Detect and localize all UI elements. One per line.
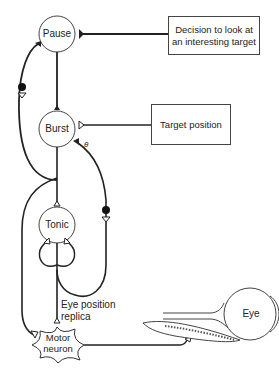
decision-line-1: Decision to look at bbox=[175, 24, 253, 36]
motor-neuron-label-1: Motor bbox=[36, 332, 80, 343]
target-position-label: Target position bbox=[160, 119, 222, 131]
eye-position-label-1: Eye position bbox=[61, 299, 115, 311]
inhibitory-synapse-icon bbox=[18, 83, 26, 91]
theta-label: θ bbox=[84, 139, 88, 151]
inhibit-arrow-icon bbox=[79, 29, 84, 39]
decision-line-2: an interesting target bbox=[172, 36, 256, 48]
optic-nerve-top bbox=[163, 303, 224, 313]
decision-input-box: Decision to look at an interesting targe… bbox=[168, 16, 260, 55]
eye-label: Eye bbox=[236, 308, 266, 320]
inhibitory-synapse-icon bbox=[102, 206, 110, 214]
motor-neuron-label-2: neuron bbox=[36, 343, 80, 354]
excite-arrow-icon bbox=[54, 318, 60, 323]
target-position-box: Target position bbox=[151, 104, 231, 145]
excite-arrow-icon bbox=[102, 217, 110, 222]
excite-arrow-icon bbox=[54, 201, 60, 206]
eye-muscle bbox=[143, 322, 240, 342]
motor-to-muscle-line bbox=[84, 340, 187, 345]
inhibit-arrow-icon bbox=[73, 138, 79, 145]
inhibit-arrow-icon bbox=[54, 105, 60, 110]
excite-arrow-icon bbox=[79, 121, 84, 129]
tonic-label: Tonic bbox=[39, 219, 75, 231]
pause-label: Pause bbox=[39, 28, 75, 40]
burst-label: Burst bbox=[39, 123, 75, 135]
eye-position-label-2: replica bbox=[61, 311, 90, 323]
